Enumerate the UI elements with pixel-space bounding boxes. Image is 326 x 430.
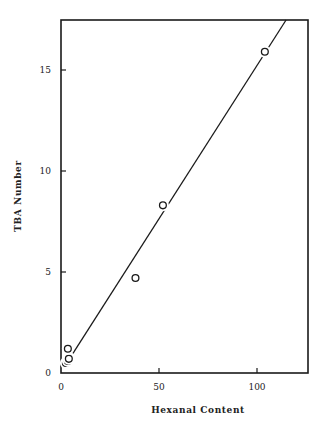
data-point-marker xyxy=(64,345,71,352)
data-point-marker xyxy=(65,355,72,362)
regression-line xyxy=(67,20,286,363)
data-point-marker xyxy=(160,202,167,209)
x-tick-label: 50 xyxy=(153,382,165,392)
y-tick-label: 15 xyxy=(40,65,52,75)
y-tick-label: 5 xyxy=(45,267,51,277)
y-tick-label: 10 xyxy=(40,166,52,176)
data-point-marker xyxy=(261,48,268,55)
x-axis-title: Hexanal Content xyxy=(151,405,245,415)
x-tick-label: 100 xyxy=(248,382,265,392)
plot-frame xyxy=(61,20,308,373)
y-axis-ticks: 051015 xyxy=(40,65,66,378)
data-point-marker xyxy=(132,275,139,282)
x-axis-ticks: 050100 xyxy=(58,368,266,392)
y-tick-label: 0 xyxy=(45,368,51,378)
x-tick-label: 0 xyxy=(58,382,64,392)
scatter-chart: 050100 051015 Hexanal Content TBA Number xyxy=(0,0,326,430)
y-axis-title: TBA Number xyxy=(13,160,23,231)
